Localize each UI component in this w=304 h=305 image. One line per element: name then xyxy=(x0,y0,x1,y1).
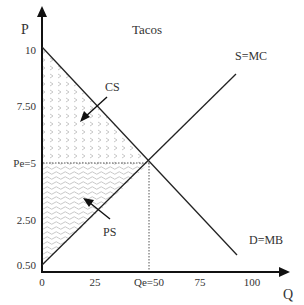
supply-demand-chart: Tacos P Q S=MC D=MB CS PS 10 7.50 Pe=5 2… xyxy=(0,0,304,305)
y-tick-7-50: 7.50 xyxy=(17,100,37,112)
y-tick-0-50: 0.50 xyxy=(17,259,37,271)
x-tick-25: 25 xyxy=(90,276,102,288)
chart-title: Tacos xyxy=(132,22,162,37)
cs-label: CS xyxy=(105,80,120,94)
y-tick-pe: Pe=5 xyxy=(13,157,36,169)
x-tick-75: 75 xyxy=(195,276,207,288)
y-axis-label: P xyxy=(21,22,29,37)
y-tick-10: 10 xyxy=(25,44,37,56)
x-tick-0: 0 xyxy=(39,276,45,288)
x-tick-100: 100 xyxy=(244,276,261,288)
y-axis-arrow-icon xyxy=(37,6,47,17)
y-tick-2-50: 2.50 xyxy=(17,214,37,226)
producer-surplus-region xyxy=(43,163,149,265)
x-axis-label: Q xyxy=(283,287,293,302)
supply-label: S=MC xyxy=(235,49,267,63)
ps-label: PS xyxy=(103,225,116,239)
x-tick-qe: Qe=50 xyxy=(134,276,165,288)
demand-label: D=MB xyxy=(249,233,283,247)
x-axis-arrow-icon xyxy=(279,267,290,277)
